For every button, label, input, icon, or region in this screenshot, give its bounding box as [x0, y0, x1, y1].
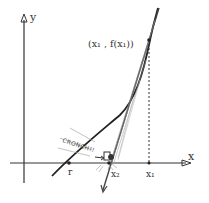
function-curve — [52, 8, 158, 176]
x2-label: x₂ — [111, 169, 120, 179]
point-x2 — [107, 161, 111, 165]
point-root — [67, 161, 71, 165]
newton-method-diagram: y x CRONCH!! (x₁ , f — [0, 0, 209, 203]
point-x1 — [148, 162, 151, 165]
y-axis — [21, 14, 27, 183]
crunch-doodle — [95, 152, 114, 160]
root-label: r — [68, 167, 73, 177]
x1-label: x₁ — [146, 169, 155, 179]
x-axis-label: x — [188, 150, 195, 163]
y-axis-label: y — [29, 11, 37, 24]
point-x1-fx1 — [147, 38, 151, 42]
point-label: (x₁ , f(x₁)) — [88, 38, 134, 49]
